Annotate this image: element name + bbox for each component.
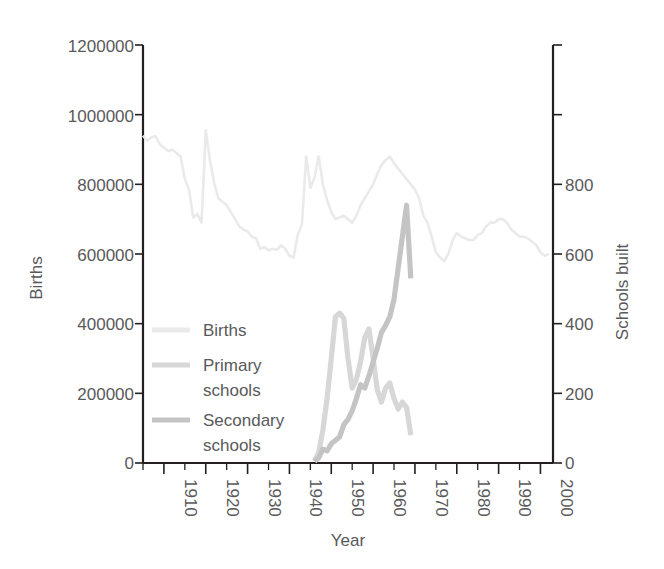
legend: Births Primary schools Secondary schools xyxy=(152,321,285,455)
series-line-secondary-schools xyxy=(315,205,411,461)
legend-label-primary-line1: Primary xyxy=(203,356,262,375)
right-tick-label-800: 800 xyxy=(565,176,593,195)
x-tick-label-1930: 1930 xyxy=(265,479,284,517)
x-tick-label-1980: 1980 xyxy=(474,479,493,517)
x-axis-title: Year xyxy=(331,531,366,550)
x-tick-label-1990: 1990 xyxy=(515,479,534,517)
legend-label-secondary-line1: Secondary xyxy=(203,411,285,430)
y-axis-title: Births xyxy=(27,256,46,299)
x-tick-label-1950: 1950 xyxy=(348,479,367,517)
left-tick-label-400000: 400000 xyxy=(77,315,134,334)
y2-axis-title: Schools built xyxy=(613,244,632,341)
left-axis-tick-labels: 0 200000 400000 600000 800000 1000000 12… xyxy=(68,37,134,473)
x-tick-label-1940: 1940 xyxy=(306,479,325,517)
right-tick-label-600: 600 xyxy=(565,246,593,265)
chart-container: 0 200000 400000 600000 800000 1000000 12… xyxy=(0,0,664,569)
left-tick-label-1200000: 1200000 xyxy=(68,37,134,56)
x-tick-label-1920: 1920 xyxy=(223,479,242,517)
right-tick-label-0: 0 xyxy=(565,454,574,473)
left-axis-ticks xyxy=(135,45,143,463)
x-tick-label-1960: 1960 xyxy=(390,479,409,517)
legend-label-births: Births xyxy=(203,321,246,340)
x-tick-label-2000: 2000 xyxy=(557,479,576,517)
right-tick-label-400: 400 xyxy=(565,315,593,334)
legend-item-births[interactable]: Births xyxy=(152,321,246,340)
left-tick-label-200000: 200000 xyxy=(77,385,134,404)
x-tick-label-1910: 1910 xyxy=(181,479,200,517)
left-tick-label-600000: 600000 xyxy=(77,246,134,265)
right-tick-label-200: 200 xyxy=(565,385,593,404)
right-axis-ticks xyxy=(553,45,562,463)
x-tick-label-1970: 1970 xyxy=(432,479,451,517)
right-axis-tick-labels: 0 200 400 600 800 xyxy=(565,176,593,473)
axes-group xyxy=(143,45,553,463)
series-line-births xyxy=(143,130,549,261)
legend-item-secondary-schools[interactable]: Secondary schools xyxy=(152,411,285,455)
legend-label-primary-line2: schools xyxy=(203,381,261,400)
left-tick-label-1000000: 1000000 xyxy=(68,107,134,126)
legend-label-secondary-line2: schools xyxy=(203,436,261,455)
left-tick-label-800000: 800000 xyxy=(77,176,134,195)
bottom-axis-tick-labels: 1910 1920 1930 1940 1950 1960 1970 1980 … xyxy=(181,479,576,517)
chart-svg: 0 200000 400000 600000 800000 1000000 12… xyxy=(0,0,664,569)
legend-item-primary-schools[interactable]: Primary schools xyxy=(152,356,262,400)
bottom-axis-ticks xyxy=(143,463,540,474)
left-tick-label-0: 0 xyxy=(125,454,134,473)
